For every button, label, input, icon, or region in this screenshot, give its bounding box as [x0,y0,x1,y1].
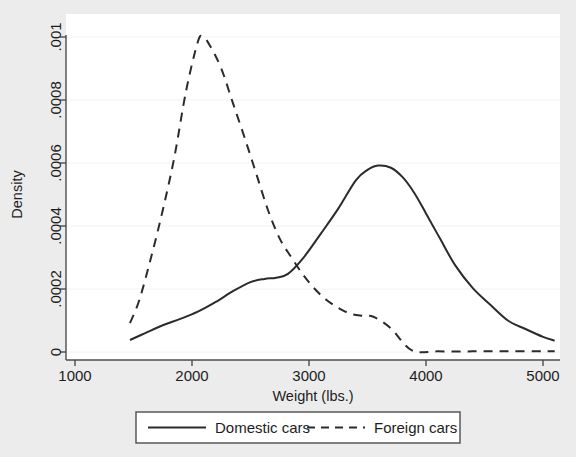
y-tick-label-2: .0004 [47,207,64,245]
y-tick-label-0: 0 [47,348,64,356]
x-tick-label-4: 5000 [526,367,559,384]
y-tick-label-1: .0002 [47,270,64,308]
y-tick-label-5: .001 [47,22,64,51]
y-tick-label-3: .0006 [47,144,64,182]
x-axis-title: Weight (lbs.) [272,388,353,404]
chart-canvas: 0.0002.0004.0006.0008.001 10002000300040… [0,0,576,457]
chart-legend: Domestic carsForeign cars [136,412,460,443]
x-tick-label-2: 3000 [292,367,325,384]
legend-label-0: Domestic cars [215,419,310,436]
x-tick-label-1: 2000 [175,367,208,384]
legend-label-1: Foreign cars [374,419,457,436]
density-plot-figure: 0.0002.0004.0006.0008.001 10002000300040… [0,0,576,457]
plot-area-background [66,14,560,360]
y-tick-label-4: .0008 [47,81,64,119]
x-tick-label-3: 4000 [409,367,442,384]
y-axis-title: Density [9,170,25,219]
x-tick-label-0: 1000 [58,367,91,384]
